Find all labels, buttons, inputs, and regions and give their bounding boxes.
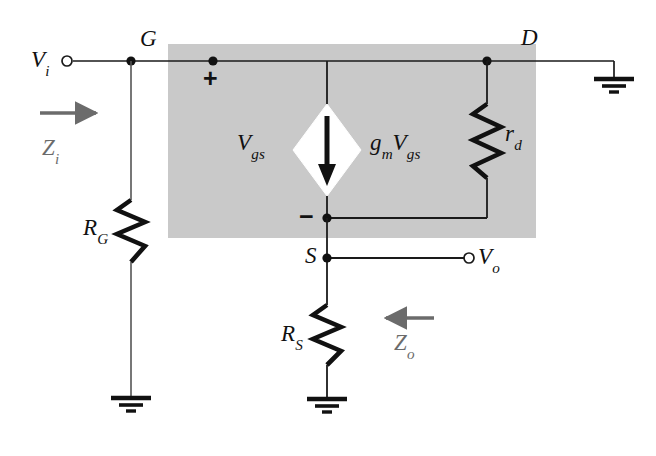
dependent-source-label: gmVgs <box>370 131 420 158</box>
gate-ground-symbol <box>111 398 151 411</box>
source-node-dot <box>322 253 331 262</box>
drain-node-label: D <box>521 26 538 49</box>
gate-source-voltage-label: Vgs <box>237 131 265 158</box>
circuit-figure: Vi G D S Vo RG RS rd Vgs gmVgs + − Zi Zo <box>0 0 656 456</box>
drain-resistance-label: rd <box>505 122 522 149</box>
output-impedance-label: Zo <box>394 331 414 358</box>
gate-node-label: G <box>140 27 157 50</box>
vgs-plus-sign: + <box>203 66 218 91</box>
input-terminal-circle <box>62 56 72 66</box>
input-impedance-label: Zi <box>42 136 59 163</box>
source-resistor-symbol <box>313 305 341 365</box>
source-node-label: S <box>305 244 317 267</box>
source-ground-symbol <box>307 399 347 412</box>
vgs-minus-sign: − <box>299 204 314 229</box>
output-terminal-label: Vo <box>478 245 500 272</box>
source-resistor-label: RS <box>281 322 303 349</box>
drain-ground-symbol <box>594 79 634 92</box>
input-terminal-label: Vi <box>31 48 49 75</box>
output-terminal-circle <box>464 253 474 263</box>
gate-resistor-symbol <box>117 200 145 262</box>
gate-resistor-label: RG <box>83 216 108 243</box>
source-branch-wire <box>327 218 464 399</box>
